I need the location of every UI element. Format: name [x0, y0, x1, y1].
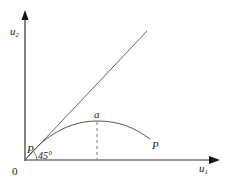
- origin-label: 0: [12, 165, 18, 177]
- curve-start-label: P: [26, 143, 34, 155]
- y-axis-label: u2: [10, 25, 20, 39]
- angle-arc: [34, 152, 38, 161]
- x-axis-label: u1: [199, 162, 208, 176]
- angle-label: 45°: [38, 150, 52, 161]
- x-axis-arrow-icon: [209, 156, 220, 164]
- y-axis-arrow-icon: [22, 10, 29, 20]
- diagram-canvas: u2 u1 0 P 45° a P: [0, 0, 236, 182]
- peak-label: a: [94, 108, 100, 120]
- curve-end-label: P: [151, 139, 159, 151]
